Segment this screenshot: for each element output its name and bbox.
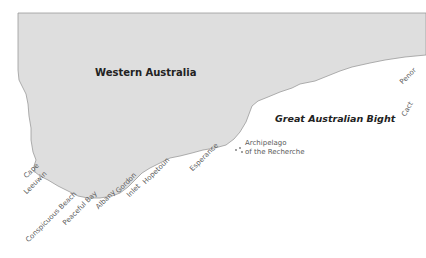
region-label-western-australia: Western Australia — [95, 67, 196, 78]
place-label-archipelago: Archipelago — [245, 139, 286, 148]
place-label-of-the-recherche: of the Recherche — [245, 148, 304, 157]
sea-label-great-australian-bight: Great Australian Bight — [275, 113, 395, 124]
western-australia-landmass — [18, 13, 426, 198]
archipelago-islands-icon — [235, 147, 243, 153]
